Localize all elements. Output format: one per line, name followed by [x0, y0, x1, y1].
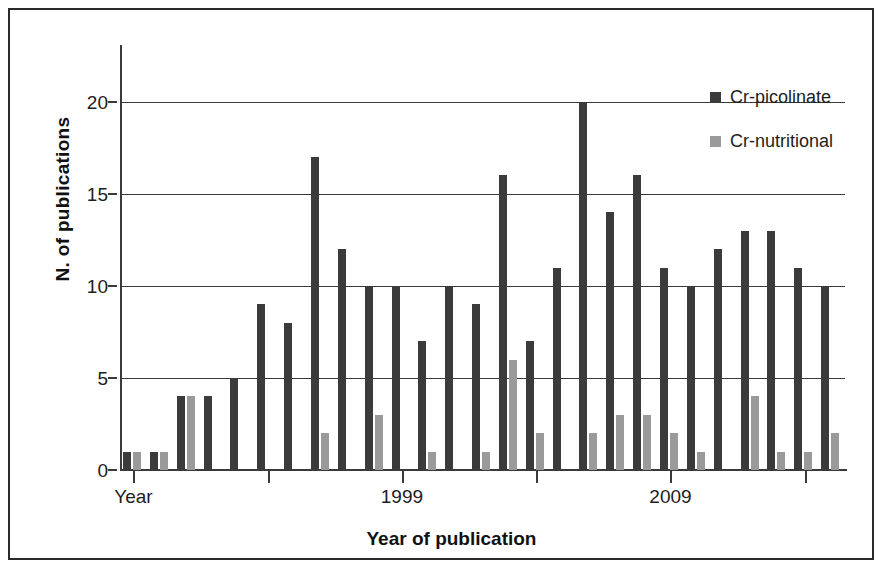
x-tick-label-1999: 1999 — [381, 486, 423, 508]
bar-group — [308, 65, 335, 470]
bar-group — [227, 65, 254, 470]
bar-cr-picolinate — [741, 231, 749, 470]
bar-group — [389, 65, 416, 470]
bar-cr-nutritional — [509, 360, 517, 470]
bar-cr-picolinate — [445, 286, 453, 470]
x-tick-mark-minor — [268, 471, 270, 483]
bar-cr-picolinate — [821, 286, 829, 470]
legend-swatch-icon — [710, 136, 721, 147]
y-tick-mark-5 — [108, 377, 117, 379]
bar-group — [335, 65, 362, 470]
bar-cr-picolinate — [553, 268, 561, 471]
y-tick-label-0: 0 — [97, 461, 108, 480]
bar-cr-picolinate — [365, 286, 373, 470]
bar-cr-picolinate — [177, 396, 185, 470]
bar-cr-picolinate — [606, 212, 614, 470]
bar-cr-picolinate — [123, 452, 131, 470]
bar-cr-nutritional — [321, 433, 329, 470]
bar-cr-picolinate — [579, 102, 587, 470]
bar-cr-picolinate — [499, 175, 507, 470]
bar-cr-nutritional — [536, 433, 544, 470]
bar-cr-nutritional — [589, 433, 597, 470]
bar-cr-nutritional — [670, 433, 678, 470]
bar-cr-picolinate — [257, 304, 265, 470]
bar-group — [254, 65, 281, 470]
bar-cr-picolinate — [714, 249, 722, 470]
bar-cr-nutritional — [482, 452, 490, 470]
bar-group — [496, 65, 523, 470]
bar-group — [201, 65, 228, 470]
y-tick-mark-10 — [108, 285, 117, 287]
y-tick-mark-15 — [108, 193, 117, 195]
bar-group — [120, 65, 147, 470]
y-tick-label-20: 20 — [87, 92, 108, 111]
bar-group — [657, 65, 684, 470]
bar-group — [442, 65, 469, 470]
bar-cr-picolinate — [794, 268, 802, 471]
bar-cr-nutritional — [160, 452, 168, 470]
bar-cr-nutritional — [428, 452, 436, 470]
y-tick-mark-20 — [108, 101, 117, 103]
bar-cr-picolinate — [633, 175, 641, 470]
bar-cr-nutritional — [375, 415, 383, 470]
legend-item: Cr-nutritional — [710, 132, 833, 150]
bar-cr-picolinate — [311, 157, 319, 470]
bar-group — [362, 65, 389, 470]
bar-group — [469, 65, 496, 470]
figure-frame: N. of publications 05101520 Year19992009… — [8, 8, 874, 560]
bar-cr-nutritional — [187, 396, 195, 470]
bar-group — [523, 65, 550, 470]
bar-group — [174, 65, 201, 470]
bar-cr-picolinate — [230, 378, 238, 470]
bar-group — [603, 65, 630, 470]
bar-cr-picolinate — [472, 304, 480, 470]
x-tick-mark-Year — [133, 471, 135, 483]
x-tick-label-2009: 2009 — [649, 486, 691, 508]
legend-swatch-icon — [710, 92, 721, 103]
bar-cr-nutritional — [804, 452, 812, 470]
legend: Cr-picolinateCr-nutritional — [710, 88, 833, 176]
bar-cr-nutritional — [777, 452, 785, 470]
bar-cr-picolinate — [204, 396, 212, 470]
bar-cr-nutritional — [133, 452, 141, 470]
y-tick-mark-0 — [108, 469, 117, 471]
legend-label: Cr-picolinate — [730, 88, 831, 106]
bar-group — [550, 65, 577, 470]
bar-group — [630, 65, 657, 470]
bar-cr-picolinate — [660, 268, 668, 471]
bar-cr-nutritional — [643, 415, 651, 470]
bar-cr-nutritional — [751, 396, 759, 470]
bar-cr-picolinate — [418, 341, 426, 470]
x-tick-label-Year: Year — [114, 486, 152, 508]
y-tick-label-10: 10 — [87, 276, 108, 295]
bar-group — [684, 65, 711, 470]
x-tick-mark-minor — [536, 471, 538, 483]
bar-cr-picolinate — [284, 323, 292, 470]
x-tick-mark-1999 — [402, 471, 404, 483]
bar-group — [576, 65, 603, 470]
bar-cr-nutritional — [831, 433, 839, 470]
bar-cr-picolinate — [150, 452, 158, 470]
legend-label: Cr-nutritional — [730, 132, 833, 150]
x-axis-title: Year of publication — [10, 528, 883, 550]
bar-cr-picolinate — [338, 249, 346, 470]
bar-cr-picolinate — [526, 341, 534, 470]
figure: N. of publications 05101520 Year19992009… — [0, 0, 883, 571]
bar-group — [281, 65, 308, 470]
y-tick-label-5: 5 — [97, 368, 108, 387]
y-axis-tick-labels: 05101520 — [60, 65, 108, 470]
bar-group — [415, 65, 442, 470]
x-tick-mark-2009 — [670, 471, 672, 483]
y-tick-label-15: 15 — [87, 184, 108, 203]
bar-cr-picolinate — [392, 286, 400, 470]
bar-cr-nutritional — [697, 452, 705, 470]
legend-item: Cr-picolinate — [710, 88, 833, 106]
bar-group — [147, 65, 174, 470]
bar-cr-picolinate — [687, 286, 695, 470]
bar-cr-nutritional — [616, 415, 624, 470]
x-tick-mark-minor — [805, 471, 807, 483]
bar-cr-picolinate — [767, 231, 775, 470]
